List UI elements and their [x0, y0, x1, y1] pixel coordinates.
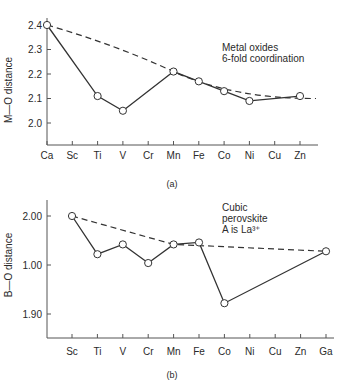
- chart-annotation: Cubic: [222, 202, 248, 213]
- data-point-marker: [145, 259, 152, 266]
- y-tick-label: 1.00: [23, 260, 43, 271]
- data-point-marker: [296, 92, 303, 99]
- x-tick-label: Cu: [268, 150, 281, 161]
- data-point-marker: [170, 68, 177, 75]
- y-tick-label: 2.0: [28, 118, 42, 129]
- x-tick-label: Cu: [269, 346, 282, 357]
- y-axis-label: M—O distance: [3, 56, 14, 123]
- panel-caption: (a): [167, 179, 178, 189]
- panel-caption: (b): [167, 370, 178, 380]
- data-point-marker: [195, 78, 202, 85]
- x-tick-label: Ga: [319, 346, 333, 357]
- x-tick-label: Mn: [167, 150, 181, 161]
- x-tick-label: Fe: [193, 150, 205, 161]
- x-tick-label: Ti: [94, 150, 102, 161]
- data-point-marker: [94, 92, 101, 99]
- y-tick-label: 2.3: [28, 44, 42, 55]
- chart-annotation: A is La³⁺: [222, 224, 260, 235]
- x-tick-label: V: [119, 346, 126, 357]
- x-tick-label: Ti: [93, 346, 101, 357]
- panel-a: 2.02.12.22.32.4CaScTiVCrMnFeCoNiCuZnM—O …: [3, 18, 318, 189]
- x-tick-label: Ni: [245, 346, 254, 357]
- data-point-marker: [119, 241, 126, 248]
- data-point-marker: [221, 88, 228, 95]
- data-point-marker: [94, 251, 101, 258]
- panel-b: 1.901.002.00ScTiVCrMnFeCoNiCuZnGaB—O dis…: [3, 200, 334, 380]
- x-tick-label: Cr: [143, 150, 154, 161]
- x-tick-label: Fe: [193, 346, 205, 357]
- chart-annotation: 6-fold coordination: [222, 53, 304, 64]
- data-point-marker: [246, 97, 253, 104]
- y-tick-label: 1.90: [23, 309, 43, 320]
- x-tick-label: Sc: [66, 346, 78, 357]
- x-tick-label: Co: [218, 150, 231, 161]
- data-point-marker: [43, 21, 50, 28]
- data-point-marker: [119, 107, 126, 114]
- x-tick-label: Mn: [167, 346, 181, 357]
- y-tick-label: 2.1: [28, 93, 42, 104]
- x-tick-label: Ca: [41, 150, 54, 161]
- observed-line: [72, 216, 326, 303]
- data-point-marker: [170, 241, 177, 248]
- data-point-marker: [195, 239, 202, 246]
- chart-annotation: perovskite: [222, 213, 268, 224]
- y-tick-label: 2.4: [28, 20, 42, 31]
- x-tick-label: Zn: [294, 150, 306, 161]
- data-point-marker: [68, 212, 75, 219]
- data-point-marker: [322, 248, 329, 255]
- x-tick-label: V: [120, 150, 127, 161]
- y-tick-label: 2.2: [28, 69, 42, 80]
- x-tick-label: Co: [218, 346, 231, 357]
- x-tick-label: Sc: [66, 150, 78, 161]
- chart-annotation: Metal oxides: [222, 42, 278, 53]
- data-point-marker: [221, 300, 228, 307]
- x-tick-label: Ni: [245, 150, 254, 161]
- x-tick-label: Zn: [295, 346, 307, 357]
- y-tick-label: 2.00: [23, 211, 43, 222]
- y-axis-label: B—O distance: [3, 232, 14, 297]
- x-tick-label: Cr: [143, 346, 154, 357]
- chart-figure: 2.02.12.22.32.4CaScTiVCrMnFeCoNiCuZnM—O …: [0, 0, 347, 388]
